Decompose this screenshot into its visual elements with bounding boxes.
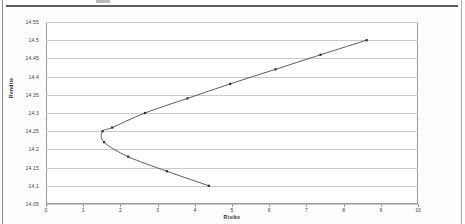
x-axis-tick-label: 2 [110, 207, 130, 213]
x-axis-tick-label: 10 [408, 207, 428, 213]
x-axis-tick-mark [381, 204, 382, 207]
y-axis-tick-label: 14.45 [0, 55, 39, 61]
x-axis-tick-label: 7 [296, 207, 316, 213]
x-axis-tick-mark [83, 204, 84, 207]
y-axis-tick-label: 14.5 [0, 37, 39, 43]
x-axis-tick-mark [306, 204, 307, 207]
data-point-markers [101, 39, 367, 187]
frontier-curve [101, 40, 366, 186]
y-axis-tick-label: 14.35 [0, 92, 39, 98]
y-axis-tick-label: 14.1 [0, 183, 39, 189]
data-point-marker [101, 130, 103, 132]
y-axis-tick-label: 14.15 [0, 165, 39, 171]
data-series-layer [46, 22, 418, 204]
y-axis-title: Rendite [8, 78, 14, 98]
y-axis-tick-label: 14.2 [0, 146, 39, 152]
x-axis-tick-label: 6 [259, 207, 279, 213]
x-axis-tick-label: 3 [148, 207, 168, 213]
x-axis-tick-label: 1 [73, 207, 93, 213]
x-axis-tick-label: 4 [185, 207, 205, 213]
data-point-marker [103, 141, 105, 143]
x-axis-tick-label: 9 [371, 207, 391, 213]
x-axis-tick-mark [418, 204, 419, 207]
x-axis-tick-label: 5 [222, 207, 242, 213]
x-axis-tick-mark [232, 204, 233, 207]
x-axis-tick-mark [120, 204, 121, 207]
y-axis-tick-label: 14.4 [0, 74, 39, 80]
x-axis-tick-mark [344, 204, 345, 207]
efficient-frontier-chart: 14.0514.114.1514.214.2514.314.3514.414.4… [0, 12, 460, 220]
x-axis-tick-mark [158, 204, 159, 207]
data-point-marker [186, 97, 188, 99]
data-point-marker [229, 83, 231, 85]
x-axis-tick-mark [46, 204, 47, 207]
page-border-right [461, 0, 462, 224]
x-axis-tick-label: 8 [334, 207, 354, 213]
data-point-marker [274, 68, 276, 70]
y-axis-tick-label: 14.25 [0, 128, 39, 134]
y-axis-tick-label: 14.05 [0, 201, 39, 207]
x-axis-tick-mark [269, 204, 270, 207]
x-axis-title: Risiko [46, 214, 418, 220]
x-axis-tick-mark [195, 204, 196, 207]
data-point-marker [366, 39, 368, 41]
data-point-marker [144, 112, 146, 114]
scanned-page: 14.0514.114.1514.214.2514.314.3514.414.4… [0, 0, 465, 224]
data-point-marker [127, 156, 129, 158]
data-point-marker [208, 185, 210, 187]
data-point-marker [319, 54, 321, 56]
header-rule [6, 5, 458, 7]
x-axis-tick-label: 0 [36, 207, 56, 213]
header-text-fragment [96, 0, 110, 3]
data-point-marker [111, 126, 113, 128]
y-axis-tick-label: 14.55 [0, 19, 39, 25]
y-axis-tick-label: 14.3 [0, 110, 39, 116]
data-point-marker [166, 170, 168, 172]
